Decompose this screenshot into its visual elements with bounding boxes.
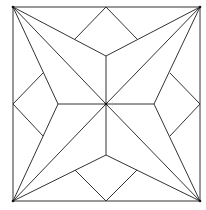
- diamond-edge: [106, 170, 137, 201]
- vertex-dot: [199, 6, 202, 9]
- diamond-edge: [13, 73, 43, 104]
- star-edge: [154, 7, 200, 104]
- star-edge: [13, 104, 58, 201]
- diamond-edge: [170, 73, 200, 104]
- star-edge: [13, 7, 58, 104]
- diamond-edge: [13, 104, 43, 136]
- diamond-edge: [75, 170, 106, 201]
- diamond-edge: [106, 7, 137, 39]
- vertex-dot: [12, 200, 15, 203]
- diamond-edge: [170, 104, 200, 136]
- vertex-dot: [105, 103, 108, 106]
- quilt-star-diagram: [0, 0, 206, 210]
- vertex-dot: [199, 200, 202, 203]
- star-edge: [106, 7, 200, 56]
- star-edge: [13, 155, 106, 201]
- vertex-dot: [12, 6, 15, 9]
- diamond-edge: [75, 7, 106, 39]
- star-edge: [13, 7, 106, 56]
- star-edge: [106, 155, 200, 201]
- star-edge: [154, 104, 200, 201]
